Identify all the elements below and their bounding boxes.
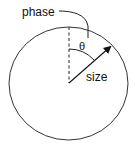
- phase-leader-line: [59, 11, 88, 38]
- phase-label: phase: [22, 5, 55, 19]
- phase-size-diagram: phase θ size: [0, 0, 135, 148]
- theta-label: θ: [79, 40, 85, 52]
- size-label: size: [86, 70, 108, 84]
